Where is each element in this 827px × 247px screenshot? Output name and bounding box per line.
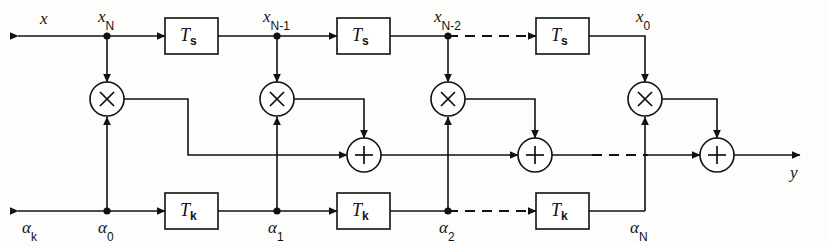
label-input-x: x [40,10,48,27]
label-delay-tk-1: Tk [180,201,197,219]
label-tap-x0: x0 [636,8,650,28]
label-tap-xn-1: xN-1 [263,8,290,28]
label-coef-a1: α1 [268,219,284,239]
coef-node-a0 [103,207,110,214]
mult1-to-sum-line [124,99,347,155]
label-coef-an: αN [630,219,648,239]
label-input-alpha-k: αk [22,219,37,239]
coef-node-a2 [444,207,451,214]
adder-2 [518,138,552,172]
label-coef-a2: α2 [439,219,455,239]
multiplier-4 [628,82,662,116]
signal-flow-diagram: x xN xN-1 xN-2 x0 Ts Ts Ts Tk Tk Tk αk α… [0,0,827,247]
label-output-y: y [790,164,798,181]
label-delay-ts-1: Ts [180,26,197,44]
label-coef-a0: α0 [98,219,114,239]
label-tap-xn-2: xN-2 [434,8,461,28]
multiplier-3 [431,82,465,116]
mult3-to-adder2 [465,99,535,138]
adder-3 [700,138,734,172]
label-delay-ts-2: Ts [352,26,369,44]
adder-1 [347,138,381,172]
mult4-to-adder3 [662,99,717,138]
mult2-to-adder1 [294,99,364,138]
coef-node-a1 [273,207,280,214]
multiplier-1 [90,82,124,116]
label-delay-ts-3: Ts [551,26,568,44]
label-delay-tk-3: Tk [551,201,568,219]
label-tap-xn: xN [98,8,114,28]
label-delay-tk-2: Tk [352,201,369,219]
diagram-canvas [0,0,827,247]
multiplier-2 [260,82,294,116]
